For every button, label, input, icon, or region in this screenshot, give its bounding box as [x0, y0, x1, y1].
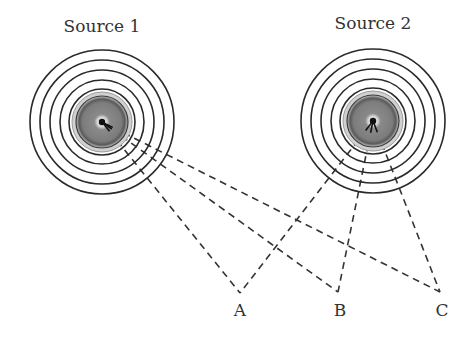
path-line-s1-b	[102, 122, 338, 292]
point-a-label: A	[234, 300, 246, 320]
source-2-label: Source 2	[335, 13, 412, 33]
diagram-graphic	[0, 0, 475, 337]
path-line-s1-c	[102, 122, 440, 292]
interference-diagram: Source 1 Source 2 A B C	[0, 0, 475, 337]
source-1-label: Source 1	[64, 16, 141, 36]
point-c-label: C	[435, 300, 448, 320]
point-b-label: B	[334, 300, 347, 320]
